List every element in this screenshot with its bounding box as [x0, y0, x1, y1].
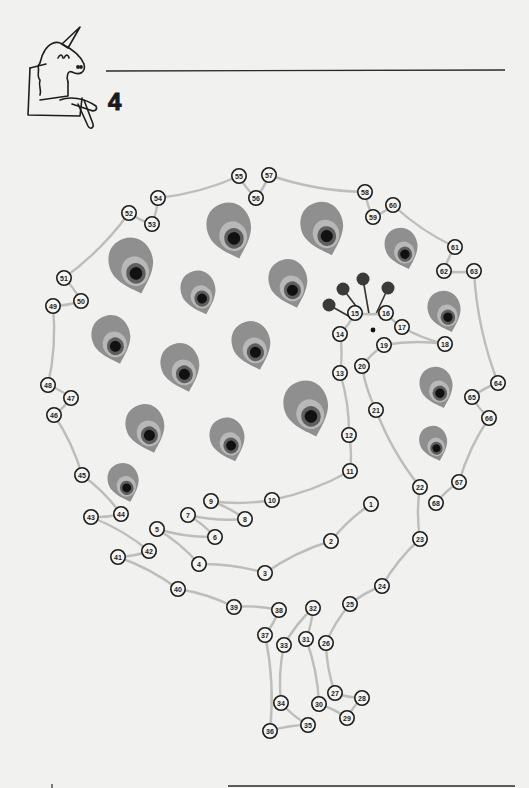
feather-eye-icon	[155, 338, 207, 397]
dot-42[interactable]: 42	[142, 544, 156, 558]
dot-16[interactable]: 16	[379, 306, 393, 320]
dot-57[interactable]: 57	[262, 168, 276, 182]
dot-28[interactable]: 28	[355, 691, 369, 705]
feather-eye-icon	[295, 196, 352, 261]
dot-46[interactable]: 46	[47, 408, 61, 422]
dot-number: 51	[60, 275, 68, 282]
dot-38[interactable]: 38	[272, 603, 286, 617]
dot-number: 54	[154, 195, 162, 202]
dot-number: 28	[358, 695, 366, 702]
dot-47[interactable]: 47	[64, 391, 78, 405]
connector-line	[211, 500, 272, 503]
dot-65[interactable]: 65	[465, 390, 479, 404]
dot-54[interactable]: 54	[151, 191, 165, 205]
dot-39[interactable]: 39	[227, 600, 241, 614]
dot-number: 67	[455, 479, 463, 486]
puzzle-canvas: 4 12345678910111213141516171819202122232…	[0, 0, 529, 788]
dot-9[interactable]: 9	[204, 494, 218, 508]
dot-62[interactable]: 62	[437, 264, 451, 278]
dot-number: 36	[266, 728, 274, 735]
dot-21[interactable]: 21	[369, 403, 383, 417]
dot-23[interactable]: 23	[413, 532, 427, 546]
dot-35[interactable]: 35	[301, 718, 315, 732]
dot-5[interactable]: 5	[150, 522, 164, 536]
dot-32[interactable]: 32	[306, 601, 320, 615]
dot-30[interactable]: 30	[312, 697, 326, 711]
dot-29[interactable]: 29	[340, 711, 354, 725]
dot-60[interactable]: 60	[386, 198, 400, 212]
dot-67[interactable]: 67	[452, 475, 466, 489]
dot-26[interactable]: 26	[319, 636, 333, 650]
dot-53[interactable]: 53	[145, 217, 159, 231]
dot-1[interactable]: 1	[364, 497, 378, 511]
crest-ball-icon	[337, 283, 350, 296]
dot-number: 47	[67, 395, 75, 402]
dot-41[interactable]: 41	[111, 550, 125, 564]
dot-number: 39	[230, 604, 238, 611]
dot-68[interactable]: 68	[429, 496, 443, 510]
dot-48[interactable]: 48	[41, 378, 55, 392]
dot-13[interactable]: 13	[333, 366, 347, 380]
dot-40[interactable]: 40	[171, 582, 185, 596]
dot-3[interactable]: 3	[258, 566, 272, 580]
dot-8[interactable]: 8	[238, 512, 252, 526]
dot-number: 30	[315, 701, 323, 708]
dot-number: 32	[309, 605, 317, 612]
dot-number: 2	[329, 538, 333, 545]
dot-25[interactable]: 25	[343, 597, 357, 611]
dot-27[interactable]: 27	[328, 686, 342, 700]
dot-10[interactable]: 10	[265, 493, 279, 507]
dot-33[interactable]: 33	[277, 638, 291, 652]
title-line	[106, 70, 505, 71]
connector-line	[118, 557, 178, 589]
crest-ball-icon	[382, 282, 395, 295]
dot-number: 66	[485, 415, 493, 422]
dot-50[interactable]: 50	[74, 294, 88, 308]
dot-20[interactable]: 20	[355, 359, 369, 373]
dot-59[interactable]: 59	[366, 210, 380, 224]
dot-31[interactable]: 31	[299, 632, 313, 646]
dot-56[interactable]: 56	[249, 191, 263, 205]
dot-17[interactable]: 17	[395, 320, 409, 334]
feather-eye-icon	[416, 422, 453, 465]
dot-18[interactable]: 18	[438, 337, 452, 351]
dot-36[interactable]: 36	[263, 724, 277, 738]
dot-34[interactable]: 34	[274, 696, 288, 710]
dot-55[interactable]: 55	[232, 169, 246, 183]
dot-45[interactable]: 45	[75, 468, 89, 482]
dot-51[interactable]: 51	[57, 271, 71, 285]
dot-11[interactable]: 11	[343, 464, 357, 478]
feather-eye-icon	[415, 363, 459, 414]
dot-44[interactable]: 44	[114, 507, 128, 521]
dot-number: 8	[243, 516, 247, 523]
dot-52[interactable]: 52	[122, 206, 136, 220]
dot-22[interactable]: 22	[413, 480, 427, 494]
dot-4[interactable]: 4	[192, 557, 206, 571]
feather-eye-icon	[102, 232, 162, 300]
connector-line	[331, 504, 371, 541]
dot-12[interactable]: 12	[342, 428, 356, 442]
dot-2[interactable]: 2	[324, 534, 338, 548]
dot-66[interactable]: 66	[482, 411, 496, 425]
dot-64[interactable]: 64	[491, 376, 505, 390]
dot-63[interactable]: 63	[467, 264, 481, 278]
dot-58[interactable]: 58	[358, 185, 372, 199]
dot-61[interactable]: 61	[448, 240, 462, 254]
dot-43[interactable]: 43	[84, 510, 98, 524]
dot-number: 56	[252, 195, 260, 202]
dot-number: 62	[440, 268, 448, 275]
dot-19[interactable]: 19	[377, 338, 391, 352]
dot-number: 59	[369, 214, 377, 221]
dot-6[interactable]: 6	[208, 530, 222, 544]
dot-15[interactable]: 15	[348, 306, 362, 320]
dot-number: 11	[346, 468, 354, 475]
dot-37[interactable]: 37	[258, 628, 272, 642]
dot-number: 18	[441, 341, 449, 348]
connector-line	[280, 645, 284, 703]
dot-7[interactable]: 7	[181, 508, 195, 522]
dot-number: 53	[148, 221, 156, 228]
dot-24[interactable]: 24	[375, 579, 389, 593]
dot-number: 17	[398, 324, 406, 331]
dot-49[interactable]: 49	[46, 299, 60, 313]
dot-14[interactable]: 14	[333, 327, 347, 341]
